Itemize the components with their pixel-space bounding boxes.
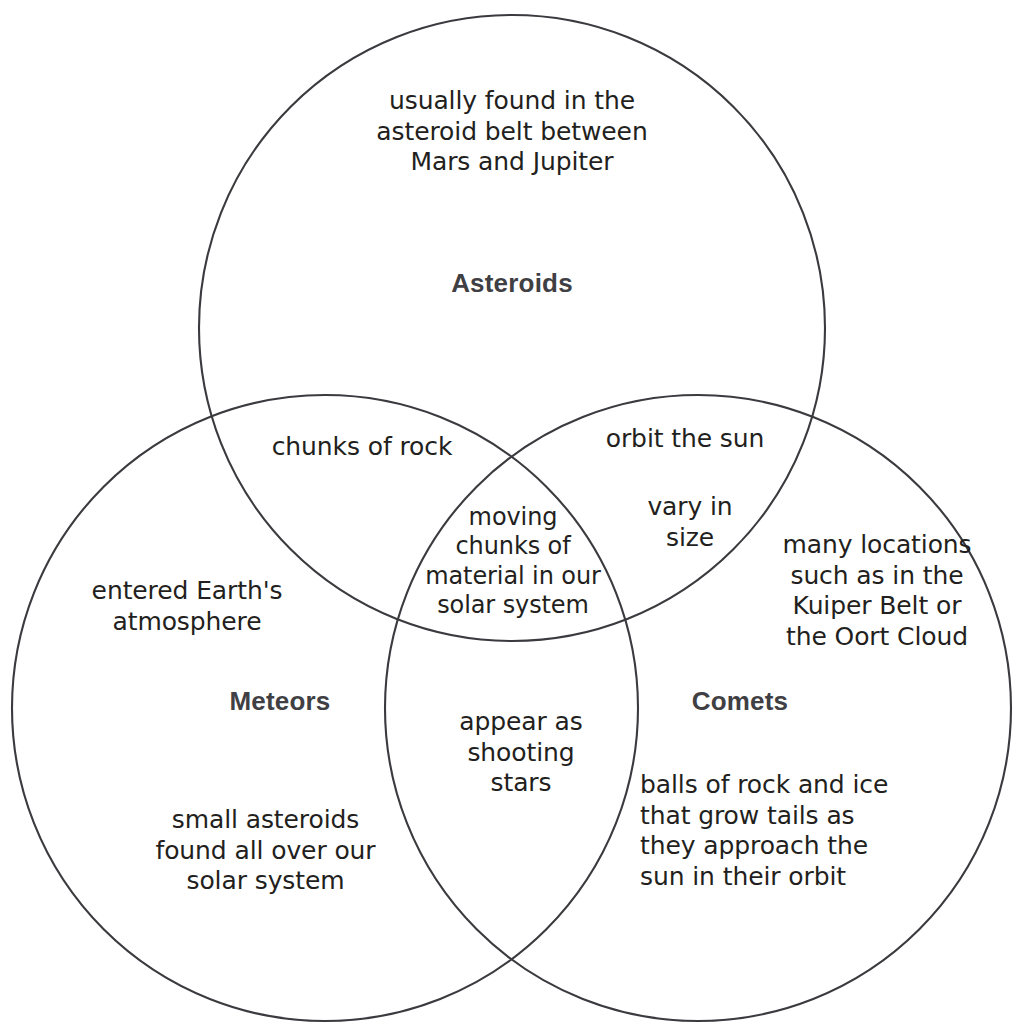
set-label-meteors: Meteors — [180, 686, 380, 717]
intersection-asteroids-comets-orbit-text: orbit the sun — [585, 424, 785, 455]
venn-diagram-canvas: l usually found in the asteroid belt bet… — [0, 0, 1013, 1027]
set-label-comets: Comets — [640, 686, 840, 717]
comets-unique-text-locations: many locations such as in the Kuiper Bel… — [752, 530, 1002, 652]
meteors-unique-text-small-asteroids: small asteroids found all over our solar… — [118, 805, 413, 897]
intersection-meteors-comets-text: appear as shooting stars — [426, 707, 616, 799]
comets-unique-text-description: balls of rock and ice that grow tails as… — [640, 770, 940, 892]
meteors-unique-text-atmosphere: entered Earth's atmosphere — [42, 576, 332, 637]
set-label-asteroids: Asteroids — [412, 268, 612, 299]
asteroids-unique-text: usually found in the asteroid belt betwe… — [312, 86, 712, 178]
intersection-all-three-text: moving chunks of material in our solar s… — [398, 503, 628, 620]
intersection-asteroids-comets-size-text: vary in size — [605, 492, 775, 553]
intersection-asteroids-meteors-text: chunks of rock — [240, 432, 484, 463]
